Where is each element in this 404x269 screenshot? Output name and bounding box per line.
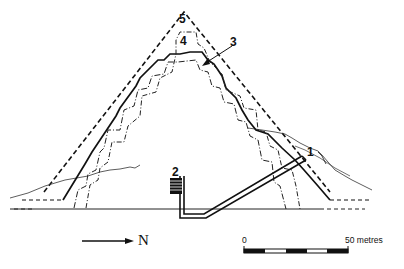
north-arrow-head	[125, 238, 134, 244]
scale-bar	[244, 246, 348, 253]
terrain-right	[248, 128, 372, 190]
stepped-solid-outline	[63, 52, 330, 200]
label-5: 5	[179, 13, 186, 25]
label-2: 2	[172, 166, 179, 178]
north-label: N	[138, 233, 149, 248]
scale-end-label: 50 metres	[345, 236, 383, 245]
scale-start-label: 0	[242, 236, 247, 245]
label-4: 4	[180, 35, 187, 47]
chamber-2-block	[170, 178, 182, 194]
label-1: 1	[307, 146, 314, 158]
label-3: 3	[230, 36, 237, 48]
pyramid-cross-section-diagram	[0, 0, 404, 269]
